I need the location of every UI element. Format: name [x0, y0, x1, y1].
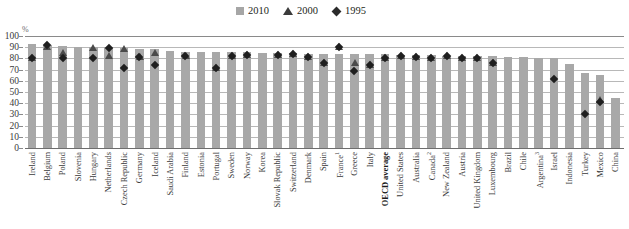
bar-group[interactable]	[578, 36, 593, 148]
bar-group[interactable]	[486, 36, 501, 148]
bar-2010[interactable]	[458, 56, 467, 148]
bar-2010[interactable]	[611, 98, 620, 148]
bar-group[interactable]	[532, 36, 547, 148]
x-axis-tick-label: Israel	[551, 152, 559, 171]
x-axis-tick-label: Greece	[351, 152, 359, 176]
bar-2010[interactable]	[304, 54, 313, 148]
marker-2000[interactable]	[120, 45, 128, 52]
bar-2010[interactable]	[135, 49, 144, 148]
x-axis-tick-label: Turkey	[581, 152, 589, 176]
bar-2010[interactable]	[519, 57, 528, 148]
bar-2010[interactable]	[565, 64, 574, 148]
bar-2010[interactable]	[227, 52, 236, 148]
bar-group[interactable]	[240, 36, 255, 148]
bar-group[interactable]	[163, 36, 178, 148]
legend-item-2000: 2000	[283, 6, 318, 17]
marker-2000[interactable]	[105, 52, 113, 59]
bar-group[interactable]	[317, 36, 332, 148]
legend-item-2010: 2010	[236, 6, 269, 17]
bar-group[interactable]	[394, 36, 409, 148]
bar-group[interactable]	[225, 36, 240, 148]
bar-group[interactable]	[133, 36, 148, 148]
bar-group[interactable]	[516, 36, 531, 148]
bar-2010[interactable]	[319, 54, 328, 148]
bar-2010[interactable]	[289, 53, 298, 148]
bar-group[interactable]	[148, 36, 163, 148]
x-axis-tick-label: New Zealand	[443, 152, 451, 197]
bar-group[interactable]	[440, 36, 455, 148]
bar-2010[interactable]	[335, 54, 344, 148]
bar-group[interactable]	[609, 36, 624, 148]
bar-group[interactable]	[409, 36, 424, 148]
bar-group[interactable]	[102, 36, 117, 148]
bar-group[interactable]	[348, 36, 363, 148]
marker-2000[interactable]	[89, 44, 97, 51]
bar-2010[interactable]	[396, 55, 405, 148]
bar-2010[interactable]	[596, 75, 605, 148]
bar-group[interactable]	[547, 36, 562, 148]
bar-2010[interactable]	[550, 58, 559, 148]
x-axis-tick-label: Argentina3	[534, 152, 545, 188]
bar-group[interactable]	[501, 36, 516, 148]
bar-group[interactable]	[56, 36, 71, 148]
x-axis-tick-label: Denmark	[305, 152, 313, 183]
bar-group[interactable]	[25, 36, 40, 148]
bar-2010[interactable]	[488, 56, 497, 148]
bar-2010[interactable]	[243, 52, 252, 148]
y-axis-tick-mark	[19, 58, 23, 59]
bar-group[interactable]	[194, 36, 209, 148]
x-axis-label-cell: Saudi Arabia	[163, 150, 178, 229]
bar-2010[interactable]	[442, 56, 451, 148]
bar-2010[interactable]	[74, 47, 83, 148]
bar-group[interactable]	[71, 36, 86, 148]
x-axis-tick-label: Korea	[259, 152, 267, 172]
x-axis-tick-label: Canada2	[426, 152, 437, 180]
bar-group[interactable]	[470, 36, 485, 148]
bar-group[interactable]	[563, 36, 578, 148]
legend-label-1995: 1995	[345, 6, 366, 17]
bar-group[interactable]	[209, 36, 224, 148]
x-axis-tick-label: France1	[334, 152, 345, 178]
marker-2000[interactable]	[151, 49, 159, 56]
bar-group[interactable]	[455, 36, 470, 148]
x-axis-label-cell: Slovak Republic	[271, 150, 286, 229]
y-axis-tick-label: 70	[10, 65, 20, 75]
marker-2000[interactable]	[351, 59, 359, 66]
bar-2010[interactable]	[197, 52, 206, 148]
bar-group[interactable]	[40, 36, 55, 148]
bar-2010[interactable]	[258, 53, 267, 148]
bar-2010[interactable]	[427, 55, 436, 148]
y-axis-tick-mark	[19, 47, 23, 48]
x-axis-label-cell: New Zealand	[440, 150, 455, 229]
x-axis-tick-label: Belgium	[44, 152, 52, 181]
bar-group[interactable]	[179, 36, 194, 148]
bar-group[interactable]	[255, 36, 270, 148]
bar-2010[interactable]	[89, 47, 98, 148]
bar-2010[interactable]	[181, 52, 190, 148]
x-axis-tick-label: Portugal	[213, 152, 221, 180]
y-axis-labels: 0102030405060708090100	[0, 36, 22, 148]
bar-2010[interactable]	[534, 58, 543, 148]
bar-2010[interactable]	[166, 51, 175, 148]
bar-group[interactable]	[332, 36, 347, 148]
bar-group[interactable]	[593, 36, 608, 148]
bar-group[interactable]	[424, 36, 439, 148]
chart-container: 2010 2000 1995 % 0102030405060708090100 …	[0, 0, 629, 229]
bar-group[interactable]	[301, 36, 316, 148]
bar-group[interactable]	[286, 36, 301, 148]
bar-2010[interactable]	[504, 57, 513, 148]
bar-2010[interactable]	[381, 54, 390, 148]
x-axis-label-cell: Turkey	[578, 150, 593, 229]
gridline	[25, 148, 624, 149]
x-axis-label-cell: Israel	[547, 150, 562, 229]
bar-group[interactable]	[271, 36, 286, 148]
bar-group[interactable]	[363, 36, 378, 148]
bar-group[interactable]	[117, 36, 132, 148]
bar-group[interactable]	[86, 36, 101, 148]
bar-2010[interactable]	[273, 53, 282, 148]
bar-2010[interactable]	[43, 45, 52, 148]
bar-2010[interactable]	[412, 55, 421, 148]
bar-2010[interactable]	[473, 56, 482, 148]
bar-group[interactable]	[378, 36, 393, 148]
bar-2010[interactable]	[104, 47, 113, 148]
